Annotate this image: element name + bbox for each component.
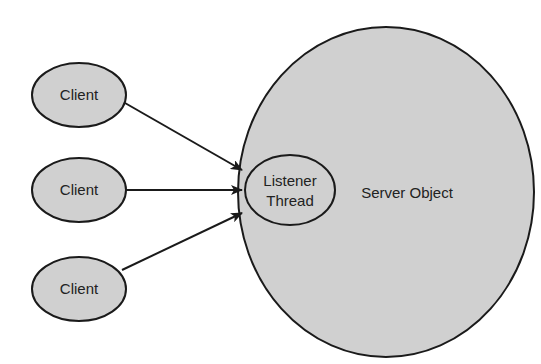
- arrows: [122, 103, 242, 270]
- client-node-2: Client: [32, 158, 126, 222]
- client-label: Client: [60, 181, 99, 198]
- arrow-client-1: [125, 103, 242, 170]
- client-server-diagram: Server Object Listener Thread Client Cli…: [0, 0, 541, 364]
- arrow-client-3: [122, 213, 242, 270]
- listener-thread-label-line1: Listener: [263, 172, 316, 189]
- client-node-3: Client: [32, 257, 126, 321]
- client-label: Client: [60, 86, 99, 103]
- client-label: Client: [60, 280, 99, 297]
- server-object-label: Server Object: [361, 184, 454, 201]
- listener-thread-label-line2: Thread: [266, 192, 314, 209]
- listener-thread-node: Listener Thread: [245, 155, 335, 225]
- client-node-1: Client: [32, 63, 126, 127]
